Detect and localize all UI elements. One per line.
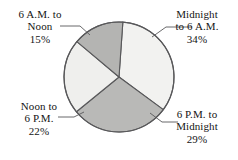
pie-label-midnight-to-6am: Midnight to 6 A.M. 34%: [160, 8, 234, 45]
pie-label-percent: 22%: [2, 125, 76, 137]
pie-label-percent: 15%: [4, 33, 76, 45]
pie-label-6am-to-noon: 6 A.M. to Noon 15%: [4, 8, 76, 45]
pie-label-line-2: Midnight: [158, 120, 236, 132]
pie-label-6pm-to-midnight: 6 P.M. to Midnight 29%: [158, 108, 236, 145]
pie-label-line-1: Midnight: [160, 8, 234, 20]
pie-label-line-2: Noon: [4, 20, 76, 32]
pie-label-percent: 34%: [160, 33, 234, 45]
pie-label-line-2: 6 P.M.: [2, 112, 76, 124]
pie-label-line-2: to 6 A.M.: [160, 20, 234, 32]
pie-chart-figure: Midnight to 6 A.M. 34% 6 A.M. to Noon 15…: [0, 0, 238, 160]
pie-label-line-1: Noon to: [2, 100, 76, 112]
pie-label-line-1: 6 A.M. to: [4, 8, 76, 20]
pie-label-line-1: 6 P.M. to: [158, 108, 236, 120]
pie-label-percent: 29%: [158, 133, 236, 145]
pie-label-noon-to-6pm: Noon to 6 P.M. 22%: [2, 100, 76, 137]
